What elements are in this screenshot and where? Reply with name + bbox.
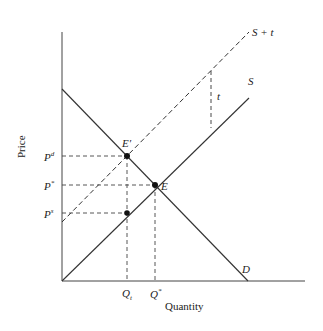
- label-s-plus-t: S + t: [252, 27, 273, 38]
- label-pd: Pd: [44, 151, 54, 163]
- label-e: E: [161, 181, 168, 192]
- supply-plus-tax-curve: [62, 32, 249, 222]
- label-ps: Ps: [44, 208, 53, 220]
- label-tax: t: [217, 91, 220, 102]
- label-qstar: Q*: [150, 288, 161, 300]
- label-s: S: [248, 76, 254, 87]
- point-e: [152, 182, 158, 188]
- diagram-canvas: [0, 0, 323, 331]
- y-axis-label: Price: [16, 135, 27, 158]
- point-ps: [124, 210, 130, 216]
- x-axis-label: Quantity: [165, 301, 204, 312]
- point-e-prime: [124, 153, 130, 159]
- label-qt: Qt: [122, 288, 132, 302]
- label-d: D: [242, 264, 250, 275]
- label-e-prime: E′: [122, 138, 131, 149]
- label-pstar: P*: [44, 180, 54, 192]
